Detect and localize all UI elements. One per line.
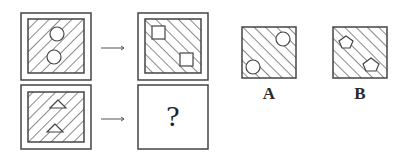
row1-source-figure (21, 13, 91, 80)
option-b-figure[interactable] (333, 27, 387, 78)
row1-target-figure (138, 13, 208, 80)
option-a-figure[interactable] (242, 27, 296, 78)
option-b-label: B (340, 84, 380, 104)
square-icon (152, 26, 165, 39)
circle-icon (276, 32, 290, 46)
circle-icon (47, 50, 61, 64)
option-a-label: A (249, 84, 289, 104)
circle-icon (50, 27, 64, 41)
arrow-right-icon (101, 46, 124, 50)
question-mark: ? (143, 99, 203, 133)
arrow-right-icon (101, 117, 124, 121)
circle-icon (246, 60, 260, 74)
row2-source-figure (21, 85, 91, 149)
square-icon (180, 53, 193, 66)
puzzle-canvas (0, 0, 415, 160)
